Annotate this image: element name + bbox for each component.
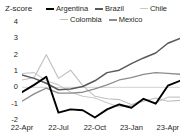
x-tick-label: 22-Apr [5, 124, 39, 132]
legend-swatch-argentina [46, 8, 54, 10]
x-tick-label: 22-Jul [41, 124, 75, 132]
y-tick-label: 1 [2, 67, 18, 75]
z-score-line-chart: Z-score Argentina Brazil Chile Colombia [0, 0, 182, 136]
legend-label-brazil: Brazil [105, 5, 124, 13]
series-line-colombia [22, 55, 180, 105]
x-tick-label: 23-Apr [151, 124, 182, 132]
legend-item-brazil[interactable]: Brazil [95, 5, 124, 13]
y-axis-title: Z-score [5, 4, 32, 13]
legend-swatch-chile [140, 8, 148, 9]
legend-swatch-mexico [109, 19, 117, 21]
y-tick-label: -1 [2, 100, 18, 108]
x-tick-label: 23-Jan [114, 124, 148, 132]
y-tick-label: 3 [2, 34, 18, 42]
legend-item-argentina[interactable]: Argentina [46, 5, 88, 13]
y-tick-label: 4 [2, 18, 18, 26]
legend-row-1: Argentina Brazil Chile [46, 3, 182, 14]
legend-label-argentina: Argentina [56, 5, 88, 13]
y-tick-label: 0 [2, 83, 18, 91]
legend-label-chile: Chile [150, 5, 167, 13]
x-tick-label: 22-Oct [78, 124, 112, 132]
y-tick-label: 2 [2, 51, 18, 59]
legend-swatch-colombia [60, 19, 68, 20]
plot-svg [22, 22, 180, 120]
plot-area [22, 22, 180, 120]
legend-item-chile[interactable]: Chile [140, 5, 167, 13]
series-line-brazil [22, 38, 180, 89]
legend-swatch-brazil [95, 8, 103, 10]
